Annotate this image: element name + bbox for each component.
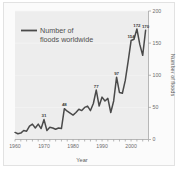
x-tick-label: 2000 [125,143,137,149]
data-point-label: 172 [133,23,141,28]
data-point-label: 170 [142,24,150,29]
flood-line-chart-figure: 050100150200 19601970198019902000 314877… [4,3,176,167]
y-tick-label: 100 [153,72,162,78]
legend-label-line2: floods worldwide [40,35,93,44]
data-point-label: 31 [42,113,47,118]
data-point-label: 77 [94,84,99,89]
y-tick-label: 150 [153,40,162,46]
data-point-label: 154 [127,34,135,39]
chart-svg: 050100150200 19601970198019902000 314877… [4,3,176,167]
x-tick-label: 1980 [67,143,79,149]
x-tick-label: 1960 [9,143,21,149]
data-point-label: 97 [114,71,119,76]
x-axis-title: Year [76,157,87,163]
y-tick-label: 0 [153,136,156,142]
x-tick-label: 1970 [38,143,50,149]
y-axis-ticks: 050100150200 [149,8,162,143]
x-axis-ticks: 19601970198019902000 [9,140,148,150]
x-tick-label: 1990 [96,143,108,149]
y-tick-label: 200 [153,8,162,14]
data-point-label: 48 [62,102,67,107]
y-tick-label: 50 [153,104,159,110]
chart-card: 050100150200 19601970198019902000 314877… [3,2,175,166]
y-axis-title: Number of floods [170,54,176,97]
